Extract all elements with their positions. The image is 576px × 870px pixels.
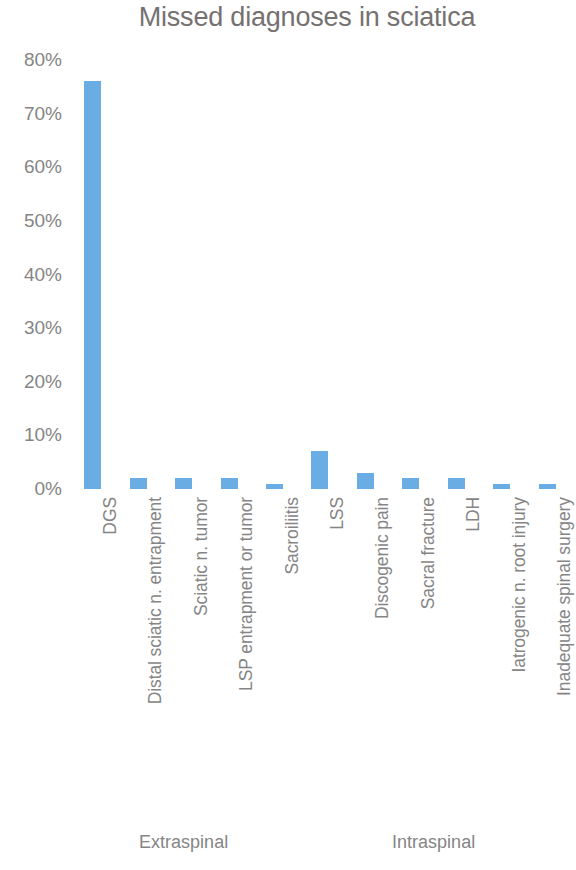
bar[interactable] xyxy=(402,478,419,489)
x-axis-tick-label: DGS xyxy=(100,497,121,535)
y-axis-tick-label: 0% xyxy=(0,478,62,500)
y-axis-tick-label: 80% xyxy=(0,49,62,71)
bar-slot xyxy=(115,52,160,489)
y-axis-tick-label: 20% xyxy=(0,371,62,393)
bar-slot xyxy=(70,52,115,489)
chart-title: Missed diagnoses in sciatica xyxy=(0,2,576,33)
x-axis-tick-label: Sacroiliitis xyxy=(282,497,303,575)
bar-slot xyxy=(343,52,388,489)
bar[interactable] xyxy=(84,81,101,489)
y-axis: 0%10%20%30%40%50%60%70%80% xyxy=(0,52,62,489)
y-axis-tick-label: 50% xyxy=(0,210,62,232)
bar-slot xyxy=(434,52,479,489)
y-axis-tick-label: 70% xyxy=(0,103,62,125)
bar[interactable] xyxy=(130,478,147,489)
chart-container: Missed diagnoses in sciatica 0%10%20%30%… xyxy=(0,0,576,870)
x-axis-group-label: Intraspinal xyxy=(392,832,475,853)
bar[interactable] xyxy=(175,478,192,489)
y-axis-tick-label: 30% xyxy=(0,317,62,339)
bar[interactable] xyxy=(221,478,238,489)
x-axis-group-labels: ExtraspinalIntraspinal xyxy=(70,832,570,866)
x-axis-group-label: Extraspinal xyxy=(139,832,228,853)
bar-slot xyxy=(388,52,433,489)
x-axis-tick-label: Sciatic n. tumor xyxy=(191,497,212,616)
bar[interactable] xyxy=(311,451,328,489)
y-axis-tick-label: 10% xyxy=(0,424,62,446)
y-axis-tick-label: 60% xyxy=(0,156,62,178)
x-axis-tick-label: LSP entrapment or tumor xyxy=(236,497,257,691)
plot-area xyxy=(70,52,570,489)
bar-slot xyxy=(297,52,342,489)
x-axis-tick-label: Distal sciatic n. entrapment xyxy=(145,497,166,704)
bar[interactable] xyxy=(448,478,465,489)
x-axis-tick-label: Sacral fracture xyxy=(418,497,439,609)
bar-slot xyxy=(252,52,297,489)
x-axis-tick-label: Iatrogenic n. root injury xyxy=(509,497,530,673)
bar-slot xyxy=(206,52,251,489)
bar-slot xyxy=(161,52,206,489)
x-axis-tick-label: Inadequate spinal surgery xyxy=(554,497,575,696)
x-axis-category-labels: DGSDistal sciatic n. entrapmentSciatic n… xyxy=(70,489,570,819)
x-axis-tick-label: Discogenic pain xyxy=(372,497,393,619)
bar[interactable] xyxy=(357,473,374,489)
bar-slot xyxy=(479,52,524,489)
bar-slot xyxy=(525,52,570,489)
x-axis-tick-label: LSS xyxy=(327,497,348,530)
y-axis-tick-label: 40% xyxy=(0,264,62,286)
bar-series xyxy=(70,52,570,489)
x-axis-tick-label: LDH xyxy=(463,497,484,532)
